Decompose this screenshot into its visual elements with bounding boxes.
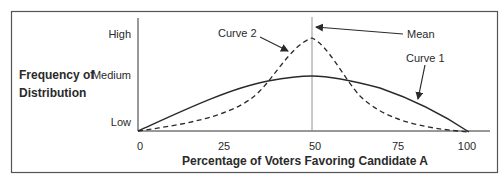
y-tick-high: High — [108, 28, 131, 40]
x-tick-25: 25 — [218, 140, 230, 152]
x-tick-100: 100 — [458, 140, 476, 152]
mean-label: Mean — [407, 28, 435, 40]
mean-arrow — [316, 27, 403, 34]
curve-2-arrow — [260, 37, 288, 51]
distribution-figure: High Medium Low Frequency of Distributio… — [0, 0, 503, 177]
y-tick-low: Low — [111, 116, 131, 128]
y-axis-title-line1: Frequency of — [19, 68, 95, 82]
x-tick-75: 75 — [392, 140, 404, 152]
curve-2-label: Curve 2 — [218, 27, 257, 39]
curve-1-arrow — [418, 65, 425, 99]
x-tick-50: 50 — [309, 140, 321, 152]
curve-1 — [138, 76, 469, 132]
y-axis-title-line2: Distribution — [19, 86, 86, 100]
y-tick-medium: Medium — [92, 69, 131, 81]
x-tick-0: 0 — [137, 140, 143, 152]
x-axis-title: Percentage of Voters Favoring Candidate … — [182, 154, 428, 168]
curve-1-label: Curve 1 — [406, 52, 445, 64]
